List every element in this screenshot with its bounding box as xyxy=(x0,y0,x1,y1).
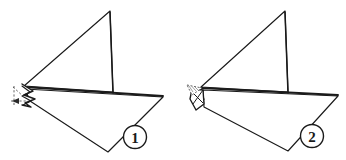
figure-1-step-number: 1 xyxy=(131,130,139,146)
origami-diagram: 1 xyxy=(0,0,346,160)
figure-2-step-badge: 2 xyxy=(301,125,324,148)
figure-1-step-badge: 1 xyxy=(124,126,147,149)
figure-1-sail-triangle xyxy=(24,11,113,92)
figure-2-sail-triangle xyxy=(201,11,288,92)
figure-step-1: 1 xyxy=(11,11,163,152)
figure-1-fold-arrow-icon xyxy=(12,98,19,104)
diagram-canvas: 1 xyxy=(0,0,346,160)
figure-2-step-number: 2 xyxy=(308,129,316,145)
figure-step-2: 2 xyxy=(187,11,338,151)
